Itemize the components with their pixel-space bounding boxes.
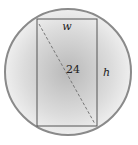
diagonal-label: 24 [66, 63, 80, 76]
diagram-canvas: w 24 h [0, 0, 138, 145]
height-label: h [103, 66, 110, 79]
width-label: w [62, 20, 72, 33]
